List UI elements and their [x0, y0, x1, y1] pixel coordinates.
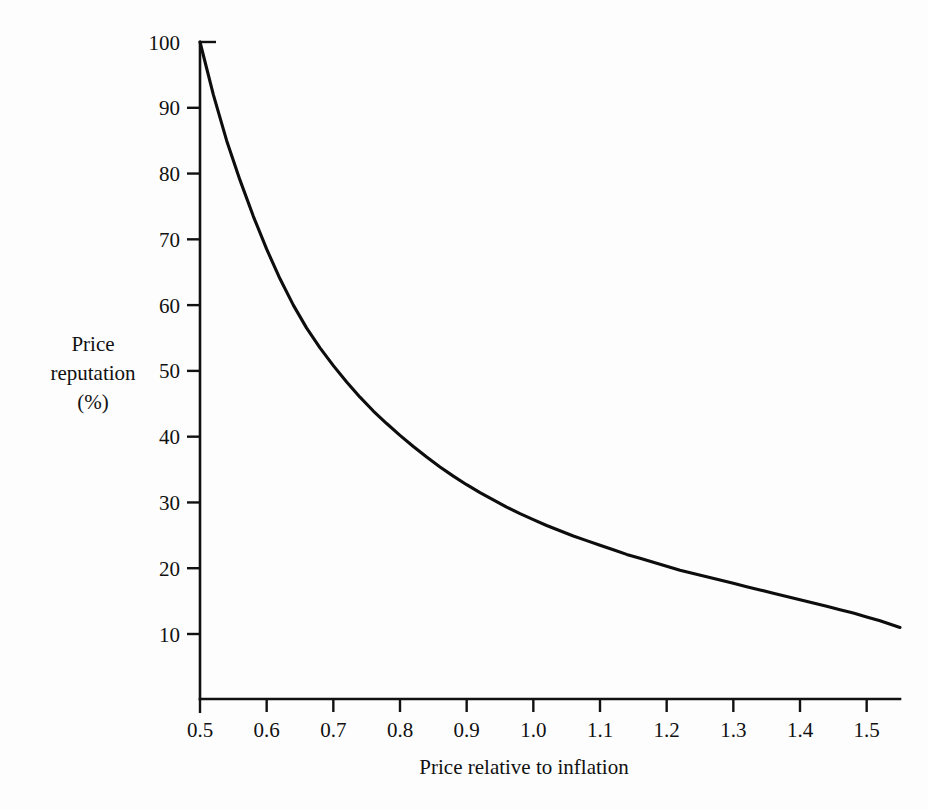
y-tick-label: 60 [159, 294, 180, 318]
ticks-group [187, 42, 867, 713]
x-tick-label: 0.9 [454, 718, 480, 742]
y-tick-label: 100 [149, 31, 181, 55]
x-tick-label: 1.0 [520, 718, 546, 742]
data-series-line [200, 42, 900, 627]
tick-labels-group: 1020304050607080901000.50.60.70.80.91.01… [149, 31, 880, 743]
y-tick-label: 30 [159, 491, 180, 515]
x-tick-label: 1.4 [787, 718, 814, 742]
figure-canvas: 1020304050607080901000.50.60.70.80.91.01… [0, 0, 928, 809]
x-tick-label: 1.3 [720, 718, 746, 742]
x-tick-label: 0.8 [387, 718, 413, 742]
x-tick-label: 1.1 [587, 718, 613, 742]
y-axis-title-line: reputation [28, 359, 158, 388]
x-tick-label: 1.5 [854, 718, 880, 742]
axes-group [200, 42, 900, 699]
y-axis-title-line: (%) [28, 388, 158, 417]
x-axis-title: Price relative to inflation [0, 755, 928, 780]
y-tick-label: 80 [159, 162, 180, 186]
y-axis-title-line: Price [28, 330, 158, 359]
y-tick-label: 70 [159, 228, 180, 252]
data-series-group [200, 42, 900, 627]
y-tick-label: 40 [159, 425, 180, 449]
x-tick-label: 0.6 [254, 718, 280, 742]
x-tick-label: 0.7 [320, 718, 346, 742]
y-axis-title: Pricereputation(%) [28, 330, 158, 417]
y-tick-label: 20 [159, 557, 180, 581]
y-tick-label: 50 [159, 359, 180, 383]
y-tick-label: 90 [159, 96, 180, 120]
x-tick-label: 0.5 [187, 718, 213, 742]
x-tick-label: 1.2 [654, 718, 680, 742]
y-tick-label: 10 [159, 623, 180, 647]
